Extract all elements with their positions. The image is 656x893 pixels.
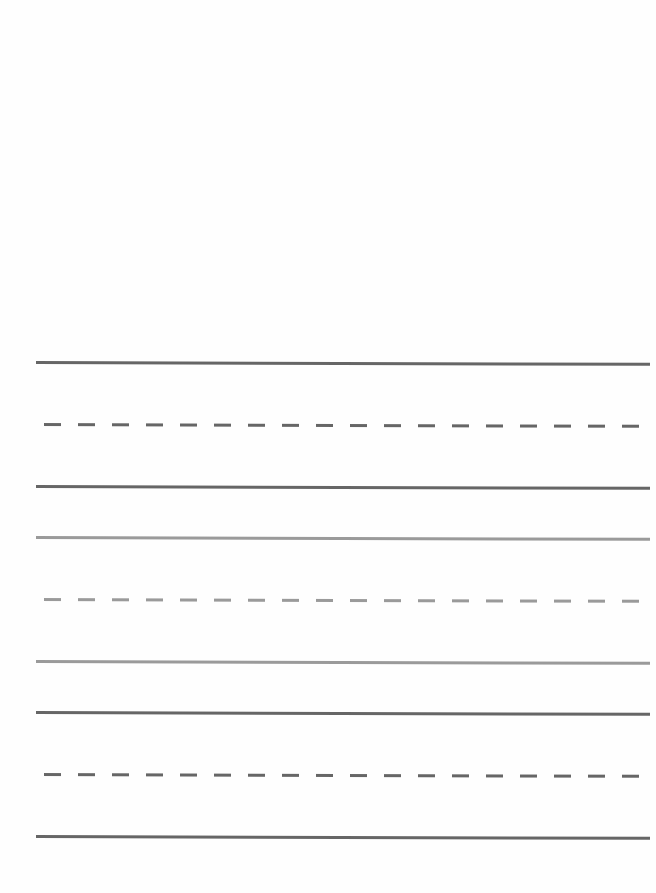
baseline — [36, 660, 650, 665]
midline-dashed — [36, 423, 650, 428]
baseline — [36, 835, 650, 840]
top-line — [36, 536, 650, 541]
midline-dashed — [36, 773, 650, 778]
blank-header-area — [0, 0, 656, 340]
top-line — [36, 711, 650, 716]
baseline — [36, 485, 650, 490]
practice-sheet — [0, 0, 656, 893]
midline-dashed — [36, 598, 650, 603]
top-line — [36, 361, 650, 366]
